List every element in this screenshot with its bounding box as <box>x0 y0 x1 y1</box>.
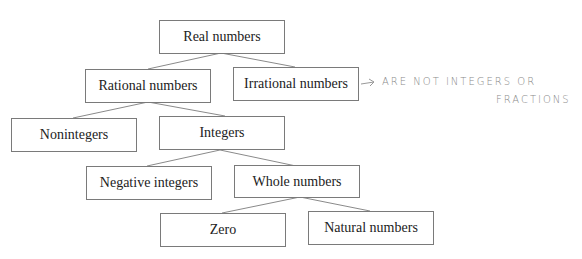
node-whole-numbers: Whole numbers <box>234 165 360 198</box>
node-nonintegers: Nonintegers <box>11 118 137 152</box>
node-integers: Integers <box>159 116 285 150</box>
node-negative-integers: Negative integers <box>86 166 212 200</box>
node-label: Whole numbers <box>252 174 341 190</box>
node-irrational-numbers: Irrational numbers <box>233 67 359 101</box>
node-label: Nonintegers <box>40 127 108 143</box>
handwritten-annotation-line1: ARE NOT INTEGERS OR <box>382 76 536 87</box>
annotation-text: ARE NOT INTEGERS OR <box>382 76 536 87</box>
node-label: Integers <box>199 125 244 141</box>
node-label: Irrational numbers <box>244 76 348 92</box>
node-label: Rational numbers <box>98 78 197 94</box>
node-rational-numbers: Rational numbers <box>85 69 211 103</box>
node-label: Zero <box>210 222 236 238</box>
node-label: Negative integers <box>100 175 198 191</box>
node-natural-numbers: Natural numbers <box>308 211 434 245</box>
node-label: Natural numbers <box>324 220 418 236</box>
annotation-text: FRACTIONS <box>496 94 571 105</box>
node-zero: Zero <box>160 213 286 247</box>
node-label: Real numbers <box>183 29 260 45</box>
handwritten-annotation-line2: FRACTIONS <box>496 94 571 105</box>
node-real-numbers: Real numbers <box>159 20 285 54</box>
